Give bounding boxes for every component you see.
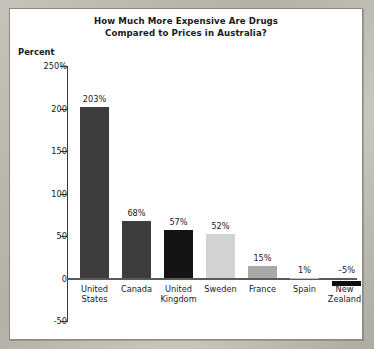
- x-label-united-states-line-2: States: [72, 294, 117, 304]
- bar-spain[interactable]: [290, 278, 319, 279]
- page-background: How Much More Expensive Are Drugs Compar…: [0, 0, 374, 349]
- x-label-united-states: United States: [72, 284, 117, 304]
- bar-value-new-zealand: –5%: [332, 265, 361, 275]
- bar-value-united-states: 203%: [80, 94, 109, 104]
- bar-canada[interactable]: [122, 221, 151, 279]
- x-label-united-kingdom-line-1: United: [165, 284, 192, 294]
- x-label-sweden-line-1: Sweden: [204, 284, 236, 294]
- x-label-united-states-line-1: United: [81, 284, 108, 294]
- y-tick-label-250: 250%: [25, 61, 67, 71]
- bar-value-spain: 1%: [290, 265, 319, 275]
- x-label-new-zealand-line-1: New: [336, 284, 354, 294]
- y-tick-label-50: 50: [25, 231, 67, 241]
- y-tick-label-0: 0: [25, 274, 67, 284]
- bar-value-sweden: 52%: [206, 221, 235, 231]
- x-label-spain-line-1: Spain: [293, 284, 316, 294]
- chart-panel: How Much More Expensive Are Drugs Compar…: [9, 8, 363, 340]
- x-label-new-zealand: New Zealand: [320, 284, 369, 304]
- bar-value-france: 15%: [248, 253, 277, 263]
- y-tick-label-100: 100: [25, 189, 67, 199]
- bar-france[interactable]: [248, 266, 277, 279]
- x-label-new-zealand-line-2: Zealand: [320, 294, 369, 304]
- y-tick-label-minus-50: -50: [25, 316, 67, 326]
- y-axis-label: Percent: [18, 47, 55, 57]
- bar-value-canada: 68%: [122, 208, 151, 218]
- y-axis-line: [67, 66, 68, 322]
- x-label-france-line-1: France: [249, 284, 276, 294]
- x-label-canada-line-1: Canada: [121, 284, 152, 294]
- bar-value-united-kingdom: 57%: [164, 217, 193, 227]
- x-label-united-kingdom-line-2: Kingdom: [154, 294, 203, 304]
- bar-sweden[interactable]: [206, 234, 235, 278]
- y-tick-label-200: 200: [25, 104, 67, 114]
- bar-united-kingdom[interactable]: [164, 230, 193, 278]
- y-tick-label-150: 150: [25, 146, 67, 156]
- bar-united-states[interactable]: [80, 107, 109, 279]
